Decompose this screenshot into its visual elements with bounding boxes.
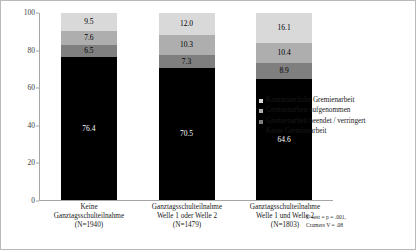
y-axis-tick-label: 60	[17, 84, 35, 92]
legend-swatch-icon	[259, 130, 263, 134]
legend-label: Gremienarbeit beendet / verringert	[266, 118, 366, 126]
stacked-bar[interactable]: 12.010.37.370.5	[159, 13, 215, 200]
stats-line-2: Cramers V = .08	[306, 221, 346, 229]
chart-figure: Angaben in Prozent 020406080100 9.57.66.…	[0, 0, 416, 250]
bar-slot: 12.010.37.370.5	[138, 13, 236, 200]
y-axis-tick-label: 40	[17, 122, 35, 130]
bar-segment[interactable]: 7.3	[159, 55, 215, 69]
legend-item[interactable]: Gremienarbeit beendet / verringert	[259, 118, 415, 126]
bar-segment-value: 10.3	[180, 41, 193, 49]
bar-segment-value: 10.4	[278, 49, 291, 57]
y-axis-tick-label: 0	[17, 197, 35, 205]
bar-segment[interactable]: 6.5	[61, 45, 117, 57]
bar-segment-value: 70.5	[180, 130, 193, 138]
legend-item[interactable]: Gremienarbeit aufgenommen	[259, 107, 415, 115]
category-label-line: Ganztagsschulteilnahme	[41, 212, 137, 221]
y-axis-tick-mark	[36, 88, 39, 89]
legend-swatch-icon	[259, 109, 263, 113]
category-label-line: (N=1940)	[41, 221, 137, 230]
x-axis-category-labels: KeineGanztagsschulteilnahme(N=1940)Ganzt…	[40, 203, 334, 229]
bar-segment-value: 76.4	[82, 125, 95, 133]
y-axis-tick-label: 20	[17, 160, 35, 168]
bar-segment[interactable]: 76.4	[61, 57, 117, 200]
y-axis-tick-mark	[36, 201, 39, 202]
bar-segment-value: 9.5	[84, 18, 93, 26]
stacked-bar[interactable]: 9.57.66.576.4	[61, 13, 117, 200]
legend-swatch-icon	[259, 120, 263, 124]
bar-segment[interactable]: 10.4	[256, 43, 312, 62]
bar-segment[interactable]: 16.1	[256, 13, 312, 43]
x-axis-category-label: KeineGanztagsschulteilnahme(N=1940)	[40, 203, 138, 229]
chart-legend: Kontinuierliche GremienarbeitGremienarbe…	[259, 97, 415, 139]
bar-segment-value: 8.9	[279, 67, 288, 75]
x-axis-line	[39, 200, 333, 201]
stats-annotation: x²-test = p = .001, Cramers V = .08	[306, 213, 346, 229]
bar-slot: 9.57.66.576.4	[40, 13, 138, 200]
y-axis-tick-label: 100	[17, 9, 35, 17]
legend-item[interactable]: Kontinuierliche Gremienarbeit	[259, 97, 415, 105]
bar-segment[interactable]: 8.9	[256, 63, 312, 80]
category-label-line: Ganztagsschulteilnahme	[139, 203, 235, 212]
category-label-line: Keine	[41, 203, 137, 212]
bar-segment[interactable]: 10.3	[159, 35, 215, 54]
legend-item[interactable]: Keine Gremienarbeit	[259, 128, 415, 136]
bar-segment[interactable]: 70.5	[159, 68, 215, 200]
category-label-line: Welle 1 oder Welle 2	[139, 212, 235, 221]
legend-label: Gremienarbeit aufgenommen	[266, 107, 350, 115]
bar-segment-value: 7.3	[182, 58, 191, 66]
legend-label: Keine Gremienarbeit	[266, 128, 326, 136]
bar-segment-value: 12.0	[180, 20, 193, 28]
category-label-line: (N=1479)	[139, 221, 235, 230]
legend-swatch-icon	[259, 99, 263, 103]
bar-segment[interactable]: 7.6	[61, 31, 117, 45]
y-axis-tick-mark	[36, 13, 39, 14]
y-axis-tick-mark	[36, 125, 39, 126]
y-axis-tick-label: 80	[17, 47, 35, 55]
y-axis-tick-mark	[36, 163, 39, 164]
bar-segment-value: 7.6	[84, 34, 93, 42]
bar-segment-value: 16.1	[278, 24, 291, 32]
bar-segment-value: 6.5	[84, 47, 93, 55]
x-axis-category-label: GanztagsschulteilnahmeWelle 1 oder Welle…	[138, 203, 236, 229]
bar-segment[interactable]: 12.0	[159, 13, 215, 35]
bar-segment[interactable]: 9.5	[61, 13, 117, 31]
legend-label: Kontinuierliche Gremienarbeit	[266, 97, 354, 105]
category-label-line: Ganztagsschulteilnahme	[237, 203, 333, 212]
y-axis-tick-mark	[36, 50, 39, 51]
stats-line-1: x²-test = p = .001,	[306, 213, 346, 221]
